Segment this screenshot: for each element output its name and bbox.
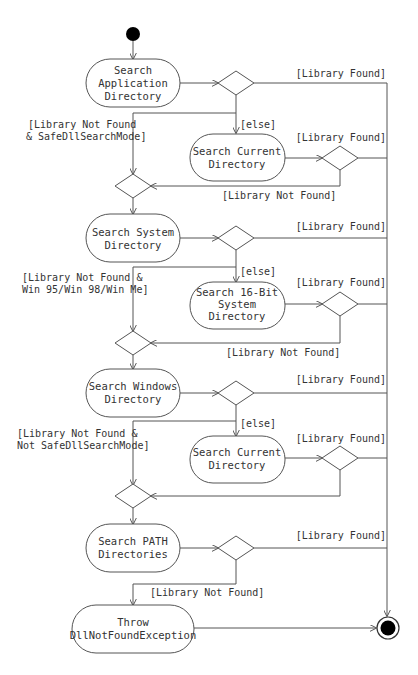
svg-text:[else]: [else] bbox=[240, 266, 276, 277]
svg-text:[Library Not Found &: [Library Not Found & bbox=[22, 272, 142, 283]
activity-search-16bit-system-directory: Search 16-Bit System Directory bbox=[190, 282, 285, 329]
svg-text:[Library Not Found]: [Library Not Found] bbox=[222, 190, 336, 201]
activity-search-application-directory: Search Application Directory bbox=[86, 59, 180, 107]
decision-7 bbox=[218, 536, 254, 560]
decision-6 bbox=[322, 446, 358, 470]
activity-throw-dllnotfoundexception: Throw DllNotFoundException bbox=[70, 605, 196, 653]
decision-4 bbox=[322, 292, 358, 316]
decision-2 bbox=[322, 146, 358, 170]
svg-text:[Library Not Found &: [Library Not Found & bbox=[17, 428, 137, 439]
decision-1 bbox=[218, 71, 254, 95]
svg-text:System: System bbox=[218, 298, 256, 310]
svg-text:[Library Found]: [Library Found] bbox=[296, 221, 386, 232]
svg-text:Search 16-Bit: Search 16-Bit bbox=[196, 286, 278, 298]
activity-diagram: Search Application Directory [Library Fo… bbox=[0, 0, 418, 675]
svg-text:Search Current: Search Current bbox=[193, 145, 282, 157]
svg-text:Directories: Directories bbox=[98, 548, 168, 560]
svg-text:[Library Found]: [Library Found] bbox=[296, 277, 386, 288]
svg-text:Directory: Directory bbox=[209, 459, 266, 471]
activity-search-current-directory-2: Search Current Directory bbox=[190, 436, 285, 483]
svg-text:Directory: Directory bbox=[105, 239, 162, 251]
svg-text:Search PATH: Search PATH bbox=[98, 535, 168, 547]
svg-text:& SafeDllSearchMode]: & SafeDllSearchMode] bbox=[26, 131, 146, 142]
svg-text:[Library Not Found]: [Library Not Found] bbox=[226, 347, 340, 358]
svg-text:Directory: Directory bbox=[105, 90, 162, 102]
svg-text:Directory: Directory bbox=[105, 393, 162, 405]
merge-3 bbox=[115, 484, 151, 508]
svg-text:[Library Found]: [Library Found] bbox=[296, 68, 386, 79]
merge-2 bbox=[115, 331, 151, 355]
svg-text:Search System: Search System bbox=[92, 226, 174, 238]
svg-text:Directory: Directory bbox=[209, 310, 266, 322]
merge-1 bbox=[115, 174, 151, 198]
final-node bbox=[377, 617, 399, 639]
svg-text:Throw: Throw bbox=[117, 616, 149, 628]
svg-text:[Library Not Found: [Library Not Found bbox=[28, 119, 136, 130]
svg-text:Not SafeDllSearchMode]: Not SafeDllSearchMode] bbox=[17, 440, 149, 451]
decision-5 bbox=[218, 381, 254, 405]
svg-text:Win 95/Win 98/Win Me]: Win 95/Win 98/Win Me] bbox=[22, 284, 148, 295]
svg-text:Directory: Directory bbox=[209, 158, 266, 170]
decision-3 bbox=[218, 226, 254, 250]
svg-text:[else]: [else] bbox=[240, 119, 276, 130]
svg-text:[Library Found]: [Library Found] bbox=[296, 132, 386, 143]
activity-search-path-directories: Search PATH Directories bbox=[86, 524, 180, 572]
svg-text:[Library Found]: [Library Found] bbox=[296, 433, 386, 444]
activity-search-windows-directory: Search Windows Directory bbox=[86, 369, 180, 417]
svg-text:[Library Not Found]: [Library Not Found] bbox=[150, 587, 264, 598]
initial-node bbox=[126, 27, 140, 41]
svg-text:Search Current: Search Current bbox=[193, 446, 282, 458]
svg-text:Search Windows: Search Windows bbox=[89, 380, 178, 392]
svg-text:[Library Found]: [Library Found] bbox=[296, 530, 386, 541]
activity-search-current-directory-1: Search Current Directory bbox=[190, 134, 285, 181]
svg-text:[Library Found]: [Library Found] bbox=[296, 374, 386, 385]
activity-search-system-directory: Search System Directory bbox=[86, 214, 180, 262]
svg-text:[else]: [else] bbox=[240, 418, 276, 429]
svg-text:DllNotFoundException: DllNotFoundException bbox=[70, 629, 196, 641]
svg-text:Search: Search bbox=[114, 64, 152, 76]
svg-text:Application: Application bbox=[98, 77, 168, 89]
